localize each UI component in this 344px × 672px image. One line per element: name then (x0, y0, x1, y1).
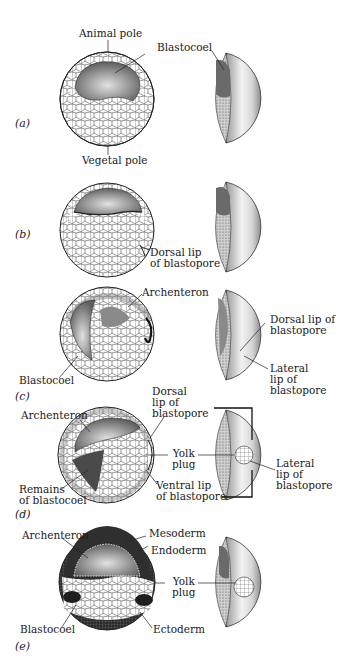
label-dorsal-lip-b: Dorsal lip of blastopore (150, 247, 220, 269)
label-animal-pole: Animal pole (79, 28, 142, 39)
label-dorsal-lip-c: Dorsal lip of blastopore (270, 314, 335, 336)
label-dorsal-lip-d: Dorsal lip of blastopore (152, 386, 209, 419)
panel-b-hemisphere (216, 182, 261, 272)
label-ventral-lip-d: Ventral lip of blastopore (156, 480, 226, 502)
label-endoderm: Endoderm (151, 545, 206, 556)
label-archenteron-e: Archenteron (22, 530, 89, 541)
label-blastocoel-a: Blastocoel (157, 42, 212, 53)
panel-letter-c: (c) (15, 390, 30, 403)
panel-e-hemisphere (198, 537, 261, 627)
panel-c-hemisphere (216, 290, 269, 380)
panel-c-section (59, 287, 154, 381)
panel-letter-e: (e) (15, 640, 30, 653)
label-blastocoel-c: Blastocoel (19, 375, 74, 386)
label-remains-blastocoel: Remains of blastocoel (19, 484, 87, 506)
panel-letter-a: (a) (15, 117, 30, 130)
label-lateral-lip-c: Lateral lip of blastopore (270, 363, 327, 396)
panel-a-hemisphere (212, 51, 261, 143)
label-yolk-plug-d: Yolk plug (172, 448, 196, 470)
gastrulation-illustration (0, 0, 344, 672)
label-archenteron-d: Archenteron (21, 410, 88, 421)
label-mesoderm: Mesoderm (149, 528, 206, 539)
label-ectoderm: Ectoderm (153, 624, 205, 635)
label-yolk-plug-e: Yolk plug (172, 576, 196, 598)
label-vegetal-pole: Vegetal pole (82, 155, 148, 166)
panel-letter-b: (b) (15, 228, 31, 241)
label-archenteron-c: Archenteron (142, 287, 209, 298)
panel-b-section (60, 183, 154, 277)
label-lateral-lip-d: Lateral lip of blastopore (276, 458, 333, 491)
panel-a-section (60, 40, 154, 155)
panel-letter-d: (d) (15, 508, 31, 521)
label-blastocoel-e: Blastocoel (20, 624, 75, 635)
panel-e-section (59, 526, 165, 630)
